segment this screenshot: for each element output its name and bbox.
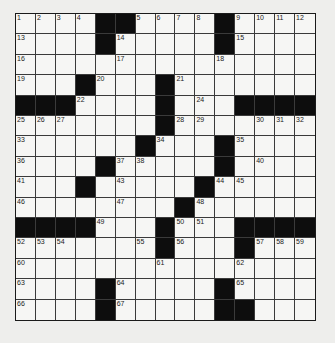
- grid-cell[interactable]: 40: [255, 157, 275, 177]
- grid-cell[interactable]: [156, 34, 176, 54]
- grid-cell[interactable]: [175, 279, 195, 299]
- grid-cell[interactable]: [36, 259, 56, 279]
- grid-cell[interactable]: [255, 136, 275, 156]
- grid-cell[interactable]: [136, 198, 156, 218]
- grid-cell[interactable]: [156, 279, 176, 299]
- grid-cell[interactable]: 2: [36, 14, 56, 34]
- grid-cell[interactable]: 17: [116, 55, 136, 75]
- grid-cell[interactable]: [255, 300, 275, 320]
- grid-cell[interactable]: [96, 198, 116, 218]
- grid-cell[interactable]: 48: [195, 198, 215, 218]
- grid-cell[interactable]: [255, 198, 275, 218]
- grid-cell[interactable]: [255, 55, 275, 75]
- grid-cell[interactable]: [195, 136, 215, 156]
- grid-cell[interactable]: [56, 34, 76, 54]
- grid-cell[interactable]: [275, 55, 295, 75]
- grid-cell[interactable]: 1: [16, 14, 36, 34]
- grid-cell[interactable]: 34: [156, 136, 176, 156]
- grid-cell[interactable]: [76, 279, 96, 299]
- grid-cell[interactable]: [295, 75, 315, 95]
- grid-cell[interactable]: [36, 75, 56, 95]
- grid-cell[interactable]: [295, 279, 315, 299]
- grid-cell[interactable]: [56, 198, 76, 218]
- grid-cell[interactable]: [195, 238, 215, 258]
- grid-cell[interactable]: [195, 75, 215, 95]
- grid-cell[interactable]: [275, 34, 295, 54]
- grid-cell[interactable]: [156, 157, 176, 177]
- grid-cell[interactable]: [295, 300, 315, 320]
- grid-cell[interactable]: [275, 75, 295, 95]
- grid-cell[interactable]: [116, 238, 136, 258]
- grid-cell[interactable]: 29: [195, 116, 215, 136]
- grid-cell[interactable]: 38: [136, 157, 156, 177]
- grid-cell[interactable]: [76, 259, 96, 279]
- grid-cell[interactable]: [215, 96, 235, 116]
- grid-cell[interactable]: [275, 198, 295, 218]
- grid-cell[interactable]: [156, 300, 176, 320]
- grid-cell[interactable]: 43: [116, 177, 136, 197]
- grid-cell[interactable]: [235, 116, 255, 136]
- grid-cell[interactable]: 3: [56, 14, 76, 34]
- grid-cell[interactable]: [116, 259, 136, 279]
- grid-cell[interactable]: [175, 96, 195, 116]
- grid-cell[interactable]: [36, 177, 56, 197]
- grid-cell[interactable]: 22: [76, 96, 96, 116]
- grid-cell[interactable]: [195, 300, 215, 320]
- grid-cell[interactable]: 24: [195, 96, 215, 116]
- grid-cell[interactable]: [96, 55, 116, 75]
- grid-cell[interactable]: [175, 259, 195, 279]
- grid-cell[interactable]: [116, 136, 136, 156]
- grid-cell[interactable]: 35: [235, 136, 255, 156]
- grid-cell[interactable]: [136, 300, 156, 320]
- grid-cell[interactable]: 36: [16, 157, 36, 177]
- grid-cell[interactable]: [56, 300, 76, 320]
- grid-cell[interactable]: 62: [235, 259, 255, 279]
- grid-cell[interactable]: 16: [16, 55, 36, 75]
- grid-cell[interactable]: [36, 34, 56, 54]
- grid-cell[interactable]: [96, 238, 116, 258]
- grid-cell[interactable]: [275, 157, 295, 177]
- grid-cell[interactable]: [76, 238, 96, 258]
- grid-cell[interactable]: 33: [16, 136, 36, 156]
- grid-cell[interactable]: [195, 34, 215, 54]
- grid-cell[interactable]: 30: [255, 116, 275, 136]
- grid-cell[interactable]: [36, 55, 56, 75]
- grid-cell[interactable]: 19: [16, 75, 36, 95]
- grid-cell[interactable]: [136, 279, 156, 299]
- grid-cell[interactable]: [56, 177, 76, 197]
- grid-cell[interactable]: [215, 75, 235, 95]
- grid-cell[interactable]: 15: [235, 34, 255, 54]
- grid-cell[interactable]: 54: [56, 238, 76, 258]
- grid-cell[interactable]: 13: [16, 34, 36, 54]
- grid-cell[interactable]: [215, 116, 235, 136]
- grid-cell[interactable]: 67: [116, 300, 136, 320]
- grid-cell[interactable]: [96, 259, 116, 279]
- grid-cell[interactable]: [295, 136, 315, 156]
- grid-cell[interactable]: [255, 34, 275, 54]
- grid-cell[interactable]: [156, 198, 176, 218]
- grid-cell[interactable]: 41: [16, 177, 36, 197]
- grid-cell[interactable]: [56, 55, 76, 75]
- grid-cell[interactable]: 20: [96, 75, 116, 95]
- grid-cell[interactable]: 53: [36, 238, 56, 258]
- grid-cell[interactable]: [56, 157, 76, 177]
- grid-cell[interactable]: [295, 34, 315, 54]
- grid-cell[interactable]: [295, 198, 315, 218]
- grid-cell[interactable]: 12: [295, 14, 315, 34]
- grid-cell[interactable]: [295, 55, 315, 75]
- grid-cell[interactable]: 6: [156, 14, 176, 34]
- grid-cell[interactable]: [76, 300, 96, 320]
- grid-cell[interactable]: [275, 136, 295, 156]
- grid-cell[interactable]: 44: [215, 177, 235, 197]
- grid-cell[interactable]: [175, 34, 195, 54]
- grid-cell[interactable]: [175, 157, 195, 177]
- grid-cell[interactable]: [215, 238, 235, 258]
- grid-cell[interactable]: [295, 177, 315, 197]
- grid-cell[interactable]: 65: [235, 279, 255, 299]
- grid-cell[interactable]: 26: [36, 116, 56, 136]
- grid-cell[interactable]: [255, 259, 275, 279]
- grid-cell[interactable]: [36, 198, 56, 218]
- grid-cell[interactable]: 63: [16, 279, 36, 299]
- grid-cell[interactable]: [235, 75, 255, 95]
- grid-cell[interactable]: 21: [175, 75, 195, 95]
